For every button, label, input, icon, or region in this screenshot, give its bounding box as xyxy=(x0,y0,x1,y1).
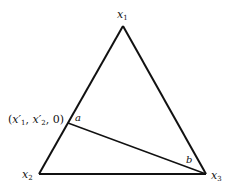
edge-x1-x2 xyxy=(39,26,123,174)
point-label: (x′1, x′2, 0) xyxy=(8,113,64,127)
angle-label-b: b xyxy=(186,154,192,165)
edge-x1-x3 xyxy=(123,26,206,174)
vertex-label-x3: x3 xyxy=(211,169,222,183)
ternary-diagram: x1 x2 x3 (x′1, x′2, 0) a b xyxy=(0,0,234,189)
angle-label-a: a xyxy=(75,112,81,123)
vertex-label-x1: x1 xyxy=(117,8,128,22)
chord-point-x3 xyxy=(68,123,206,174)
diagram-svg: x1 x2 x3 (x′1, x′2, 0) a b xyxy=(0,0,234,189)
vertex-label-x2: x2 xyxy=(22,168,33,182)
